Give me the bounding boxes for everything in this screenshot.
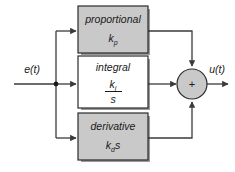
input-signal-label: e(t) xyxy=(24,63,40,75)
integral-block-denominator: s xyxy=(110,93,116,105)
pid-block-diagram: + proportional kp integral ki s derivati… xyxy=(0,0,235,172)
summing-junction-plus-label: + xyxy=(189,78,195,90)
proportional-gain-sub: p xyxy=(113,39,118,47)
block-diagram-canvas: + proportional kp integral ki s derivati… xyxy=(0,0,235,172)
integral-block-title: integral xyxy=(96,61,131,73)
branch-node-dot xyxy=(54,82,59,87)
wire-derivative-to-sum xyxy=(148,102,192,138)
proportional-block-title: proportional xyxy=(84,13,141,25)
output-signal-label: u(t) xyxy=(209,63,225,75)
derivative-block-title: derivative xyxy=(91,120,136,132)
wire-proportional-to-sum xyxy=(148,31,192,66)
derivative-gain-suffix: s xyxy=(115,139,121,151)
